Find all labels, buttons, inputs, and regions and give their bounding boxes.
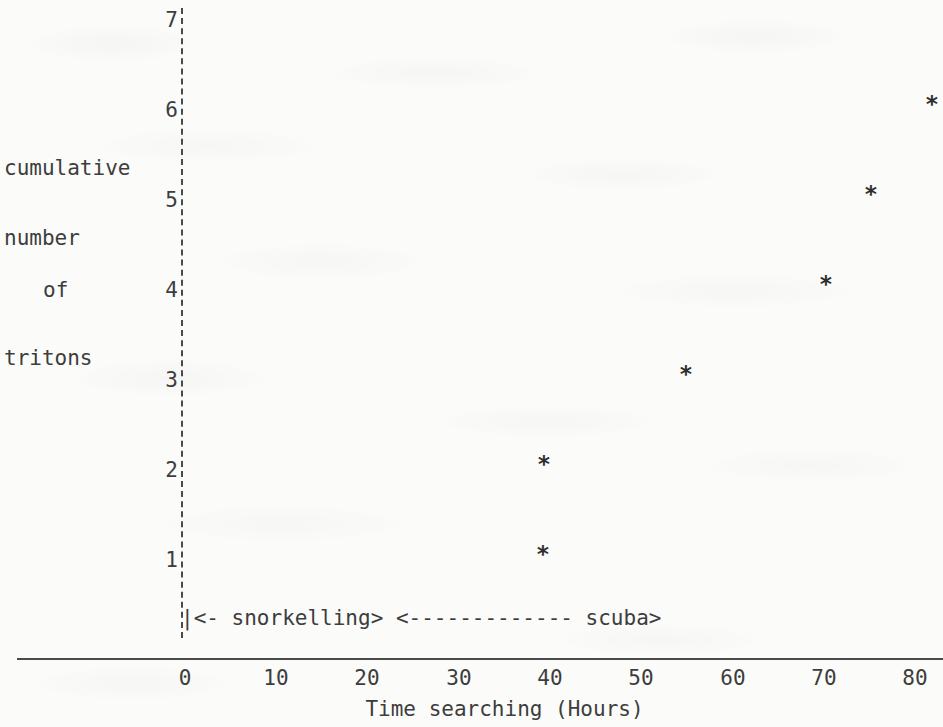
chart-figure: 7 6 5 4 3 2 1 cumulative number of trito… — [0, 0, 943, 727]
x-tick-label-40: 40 — [530, 668, 570, 689]
data-point-6: * — [924, 93, 940, 116]
y-tick-label-7: 7 — [150, 10, 178, 31]
x-tick-label-10: 10 — [256, 668, 296, 689]
y-axis-caption-line-2: number — [4, 228, 80, 249]
y-tick-label-4: 4 — [150, 280, 178, 301]
data-point-2: * — [536, 453, 552, 476]
x-tick-label-30: 30 — [439, 668, 479, 689]
y-tick-label-5: 5 — [150, 190, 178, 211]
y-axis-caption-line-1: cumulative — [4, 158, 130, 179]
y-axis-caption-line-4: tritons — [4, 348, 93, 369]
x-tick-label-80: 80 — [895, 668, 935, 689]
x-tick-label-20: 20 — [347, 668, 387, 689]
data-point-4: * — [818, 273, 834, 296]
x-axis-line — [17, 658, 943, 660]
x-axis-title: Time searching (Hours) — [0, 699, 943, 720]
x-tick-label-70: 70 — [804, 668, 844, 689]
y-tick-label-1: 1 — [150, 550, 178, 571]
x-tick-label-0: 0 — [165, 668, 205, 689]
y-axis-caption-line-3: of — [43, 280, 68, 301]
data-point-1: * — [535, 543, 551, 566]
x-tick-label-50: 50 — [621, 668, 661, 689]
y-axis-line — [181, 8, 183, 638]
y-tick-label-3: 3 — [150, 370, 178, 391]
data-point-5: * — [863, 183, 879, 206]
x-tick-label-60: 60 — [713, 668, 753, 689]
data-point-3: * — [678, 363, 694, 386]
y-tick-label-2: 2 — [150, 460, 178, 481]
y-tick-label-6: 6 — [150, 100, 178, 121]
phase-annotation: |<- snorkelling> <------------- scuba> — [181, 607, 661, 630]
